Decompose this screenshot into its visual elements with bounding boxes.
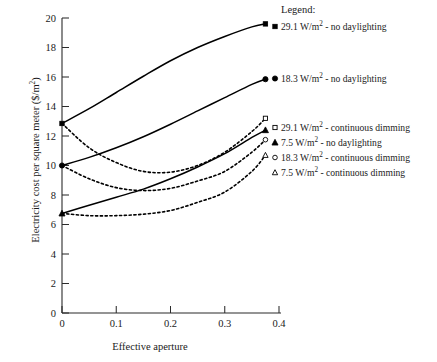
legend-marker-open-triangle-icon: [268, 166, 281, 178]
x-axis-title: Effective aperture: [0, 341, 300, 352]
legend-marker-open-square-icon: [268, 121, 281, 133]
data-series-group: [59, 22, 269, 216]
series-line-0: [62, 24, 265, 124]
legend-label-suffix: - no daylighting: [323, 73, 387, 84]
legend-label-prefix: 7.5 W/m: [281, 137, 314, 148]
legend-label-suffix: - no daylighting: [323, 21, 387, 32]
x-tick-label: 0.3: [218, 318, 231, 329]
legend-marker-open-circle-icon: [268, 151, 281, 163]
legend-item-1[interactable]: 18.3 W/m2 - no daylighting: [268, 72, 386, 84]
chart-canvas: 02468101214161820 00.10.20.30.4: [0, 0, 437, 362]
legend-label-prefix: 29.1 W/m: [281, 21, 319, 32]
legend-marker-filled-circle-icon: [268, 72, 281, 84]
y-tick-label: 4: [51, 249, 57, 260]
legend-item-0[interactable]: 29.1 W/m2 - no daylighting: [268, 20, 386, 32]
x-tick-label: 0.4: [272, 318, 286, 329]
legend-label-suffix: - continuous dimming: [323, 122, 410, 133]
legend-label-suffix: - continuous dimming: [318, 167, 405, 178]
legend-label-5: 7.5 W/m2 - continuous dimming: [281, 167, 405, 178]
y-tick-label: 2: [51, 278, 56, 289]
legend-label-3: 7.5 W/m2 - no daylighting: [281, 137, 382, 148]
y-axis-title-prefix: Electricity cost per square meter ($/m: [30, 84, 41, 242]
series-5: [62, 152, 268, 216]
legend-label-prefix: 29.1 W/m: [281, 122, 319, 133]
series-1: [59, 77, 268, 168]
data-point-marker-filled-square: [273, 24, 277, 28]
y-tick-label: 10: [46, 160, 57, 171]
data-point-marker-filled-circle: [272, 76, 277, 81]
legend-label-prefix: 7.5 W/m: [281, 167, 314, 178]
x-tick-group: [62, 306, 279, 313]
y-tick-labels: 02468101214161820: [46, 13, 57, 319]
series-0: [60, 22, 268, 126]
legend-item-4[interactable]: 18.3 W/m2 - continuous dimming: [268, 151, 410, 163]
data-point-marker-filled-triangle: [272, 139, 278, 145]
legend-label-suffix: - no daylighting: [318, 137, 382, 148]
series-line-3: [62, 130, 265, 213]
y-axis-title: Electricity cost per square meter ($/m2): [30, 77, 41, 242]
legend-label-suffix: - continuous dimming: [323, 152, 410, 163]
y-tick-label: 6: [51, 219, 56, 230]
legend-label-prefix: 18.3 W/m: [281, 73, 319, 84]
legend-marker-filled-triangle-icon: [268, 136, 281, 148]
series-line-1: [62, 79, 265, 165]
legend-label-prefix: 18.3 W/m: [281, 152, 319, 163]
x-tick-labels: 00.10.20.30.4: [59, 318, 286, 329]
legend-item-5[interactable]: 7.5 W/m2 - continuous dimming: [268, 166, 405, 178]
data-point-marker-open-square: [263, 116, 267, 120]
y-tick-label: 0: [51, 308, 56, 319]
data-point-marker-filled-square: [263, 22, 267, 26]
y-axis-title-superscript: 2: [29, 81, 37, 85]
y-tick-label: 12: [46, 131, 57, 142]
legend-title: Legend:: [281, 4, 437, 15]
data-point-marker-open-circle: [273, 155, 278, 160]
y-tick-label: 16: [46, 72, 57, 83]
legend-label-2: 29.1 W/m2 - continuous dimming: [281, 122, 410, 133]
x-tick-label: 0.1: [110, 318, 123, 329]
data-point-marker-open-square: [273, 125, 277, 129]
series-3: [59, 127, 269, 216]
legend-item-3[interactable]: 7.5 W/m2 - no daylighting: [268, 136, 382, 148]
y-axis-title-wrapper: Electricity cost per square meter ($/m2): [25, 30, 41, 290]
y-tick-label: 14: [46, 101, 57, 112]
legend-label-4: 18.3 W/m2 - continuous dimming: [281, 152, 410, 163]
y-tick-label: 8: [51, 190, 56, 201]
legend-label-1: 18.3 W/m2 - no daylighting: [281, 73, 386, 84]
axes-group: [62, 18, 281, 313]
x-tick-label: 0.2: [164, 318, 177, 329]
chart-figure: 02468101214161820 00.10.20.30.4 Effectiv…: [0, 0, 437, 362]
y-tick-label: 18: [46, 42, 57, 53]
y-axis-title-suffix: ): [30, 77, 41, 81]
data-point-marker-open-triangle: [272, 170, 277, 175]
legend-label-0: 29.1 W/m2 - no daylighting: [281, 21, 386, 32]
x-tick-label: 0: [59, 318, 64, 329]
legend-marker-filled-square-icon: [268, 20, 281, 32]
y-tick-label: 20: [46, 13, 57, 24]
series-4: [62, 137, 268, 190]
legend-item-2[interactable]: 29.1 W/m2 - continuous dimming: [268, 121, 410, 133]
legend: Legend: 29.1 W/m2 - no daylighting18.3 W…: [268, 4, 437, 17]
